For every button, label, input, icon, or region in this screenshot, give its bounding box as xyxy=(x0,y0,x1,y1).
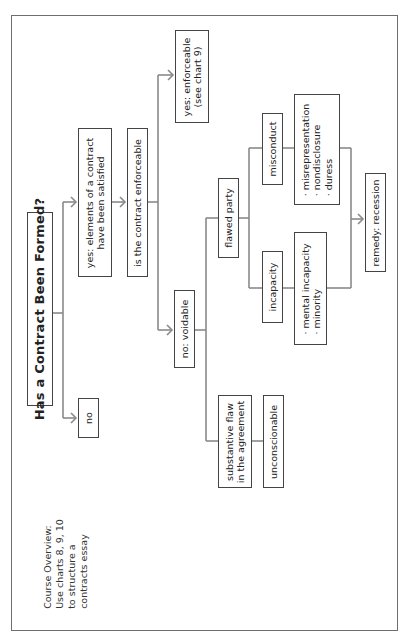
node-substantive-flaw: substantive flaw in the agreement xyxy=(218,395,252,488)
node-yes-enforceable-line2: (see chart 9) xyxy=(192,37,203,116)
node-yes-formed: yes: elements of a contract have been sa… xyxy=(78,128,112,277)
list-item-duress: · duress xyxy=(323,103,334,196)
note-line2: Use charts 8, 9, 10 xyxy=(54,519,66,609)
list-item-nondisclosure: · nondisclosure xyxy=(311,103,322,196)
node-substantive-flaw-line1: substantive flaw xyxy=(224,400,235,482)
list-item-misrepresentation: · misrepresentation xyxy=(300,103,311,196)
node-misconduct-list: · misrepresentation · nondisclosure · du… xyxy=(294,94,340,205)
node-misconduct: misconduct xyxy=(262,113,283,185)
list-item-mental-incapacity: · mental incapacity xyxy=(299,243,310,334)
note-line4: contracts essay xyxy=(78,519,90,609)
list-item-minority: · minority xyxy=(311,243,322,334)
node-yes-enforceable: yes: enforceable (see chart 9) xyxy=(175,30,209,123)
course-overview-note: Course Overview: Use charts 8, 9, 10 to … xyxy=(38,515,94,613)
node-remedy: remedy: recession xyxy=(365,173,386,272)
node-is-enforceable-label: is the contract enforceable xyxy=(132,139,143,267)
note-line3: to structure a xyxy=(66,519,78,609)
node-flawed-party-label: flawed party xyxy=(223,188,234,248)
node-no-voidable: no: voidable xyxy=(174,290,195,368)
title-box: Has a Contract Been Formed? xyxy=(27,212,53,406)
node-no: no xyxy=(78,398,99,438)
node-incapacity-list: · mental incapacity · minority xyxy=(294,232,327,345)
node-no-label: no xyxy=(83,412,94,424)
node-remedy-label: remedy: recession xyxy=(370,179,381,266)
node-is-enforceable: is the contract enforceable xyxy=(127,128,148,277)
node-unconscionable-label: unconscionable xyxy=(268,404,279,478)
node-yes-formed-line1: yes: elements of a contract xyxy=(84,137,95,267)
note-line1: Course Overview: xyxy=(42,519,54,609)
node-yes-enforceable-line1: yes: enforceable xyxy=(181,37,192,116)
node-no-voidable-label: no: voidable xyxy=(179,300,190,359)
node-flawed-party: flawed party xyxy=(218,178,239,258)
node-yes-formed-line2: have been satisfied xyxy=(95,137,106,267)
node-substantive-flaw-line2: in the agreement xyxy=(235,400,246,482)
node-misconduct-label: misconduct xyxy=(267,122,278,177)
diagram-title: Has a Contract Been Formed? xyxy=(32,198,48,420)
node-unconscionable: unconscionable xyxy=(263,395,284,488)
node-incapacity: incapacity xyxy=(262,251,283,323)
node-incapacity-label: incapacity xyxy=(267,263,278,312)
